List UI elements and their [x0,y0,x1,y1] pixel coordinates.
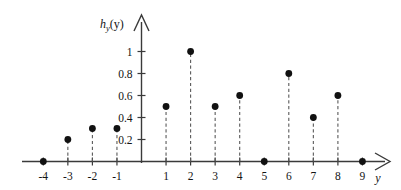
data-point-marker [310,114,317,121]
y-tick-label: 0.6 [118,90,133,102]
data-point-marker [163,103,170,110]
y-tick-label: 0.8 [118,68,133,80]
x-tick-label: 7 [310,170,316,182]
data-point-marker [114,125,121,132]
data-point-marker [212,103,219,110]
y-tick-label: 0.2 [118,134,133,146]
data-point-marker [236,92,243,99]
y-label-argument: (y) [110,17,124,31]
x-tick-label: 6 [286,170,292,182]
x-tick-label-group: -4-3-2-1123456789 [39,170,366,182]
y-tick-label: 0.4 [118,112,133,124]
data-point-marker [359,158,366,165]
data-point-marker [64,136,71,143]
data-point-marker [40,158,47,165]
x-tick-label: 2 [188,170,194,182]
x-axis-label: y [374,171,381,185]
x-tick-label: 5 [261,170,267,182]
data-point-marker [261,158,268,165]
y-tick-label-group: 0.20.40.60.81 [118,46,133,146]
x-tick-label: 4 [237,170,243,182]
x-tick-label: 9 [360,170,366,182]
axes-group [22,15,390,170]
x-tick-label: 1 [163,170,169,182]
x-tick-label: -2 [88,170,98,182]
data-point-marker [335,92,342,99]
x-tick-label: -1 [112,170,122,182]
x-tick-label: 8 [335,170,341,182]
y-tick-label: 1 [127,46,133,58]
x-tick-label: -3 [63,170,73,182]
data-point-marker [285,70,292,77]
plot-canvas: -4-3-2-1123456789 0.20.40.60.81 y hy(y) [0,0,401,190]
x-tick-label: 3 [212,170,218,182]
stem-group [68,54,338,162]
stem-plot-figure: -4-3-2-1123456789 0.20.40.60.81 y hy(y) [0,0,401,190]
data-point-marker [187,48,194,55]
x-tick-label: -4 [39,170,49,182]
data-point-marker [89,125,96,132]
y-axis-label: hy(y) [100,17,124,33]
data-point-group [40,48,366,165]
